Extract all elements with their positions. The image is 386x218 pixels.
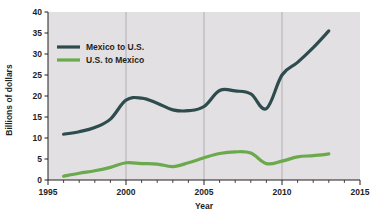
- y-tick-label-10: 10: [33, 133, 43, 143]
- y-tick-label-20: 20: [33, 91, 43, 101]
- legend-label-mexico-to-us: Mexico to U.S.: [86, 42, 144, 52]
- chart-figure: 0510152025303540 19952000200520102015 Ye…: [0, 0, 386, 218]
- x-tick-label-1995: 1995: [39, 187, 58, 197]
- y-tick-label-5: 5: [37, 154, 42, 164]
- x-tick-label-2000: 2000: [117, 187, 136, 197]
- x-tick-label-2015: 2015: [351, 187, 370, 197]
- y-tick-label-30: 30: [33, 49, 43, 59]
- y-tick-label-25: 25: [33, 70, 43, 80]
- x-tick-label-2005: 2005: [195, 187, 214, 197]
- y-tick-label-40: 40: [33, 7, 43, 17]
- y-tick-label-0: 0: [37, 175, 42, 185]
- legend-label-us-to-mexico: U.S. to Mexico: [86, 55, 144, 65]
- x-axis-title: Year: [195, 201, 214, 211]
- line-chart: 0510152025303540 19952000200520102015 Ye…: [0, 0, 386, 218]
- y-tick-label-15: 15: [33, 112, 43, 122]
- x-tick-label-2010: 2010: [273, 187, 292, 197]
- y-tick-label-35: 35: [33, 28, 43, 38]
- y-axis-title: Billions of dollars: [4, 64, 14, 136]
